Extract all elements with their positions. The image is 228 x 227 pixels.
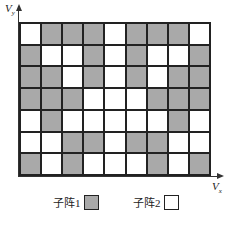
grid-cell-subarray2 <box>104 132 125 154</box>
grid-cell-subarray1 <box>83 66 104 88</box>
grid-cell-subarray1 <box>20 153 41 175</box>
grid-cell-subarray1 <box>62 132 83 154</box>
grid-cell-subarray2 <box>83 153 104 175</box>
grid-cell-subarray2 <box>126 88 147 110</box>
grid-cell-subarray1 <box>147 23 168 45</box>
grid-cell-subarray2 <box>126 110 147 132</box>
grid-cell-subarray2 <box>104 110 125 132</box>
x-axis-label: Vx <box>212 180 222 195</box>
grid-cell-subarray1 <box>62 153 83 175</box>
grid-cell-subarray2 <box>126 153 147 175</box>
legend: 子阵1 子阵2 <box>0 194 228 214</box>
legend-item-subarray2: 子阵2 <box>133 194 179 210</box>
grid-cell-subarray1 <box>83 23 104 45</box>
grid-cell-subarray1 <box>20 66 41 88</box>
grid-cell-subarray1 <box>189 45 210 67</box>
grid-cell-subarray1 <box>62 88 83 110</box>
y-axis-arrow-icon <box>16 4 22 11</box>
grid-cell-subarray2 <box>104 88 125 110</box>
grid-cell-subarray2 <box>189 23 210 45</box>
grid-cell-subarray2 <box>168 132 189 154</box>
grid-cell-subarray1 <box>41 66 62 88</box>
grid-cell-subarray1 <box>41 23 62 45</box>
legend-label-subarray2: 子阵2 <box>133 194 161 210</box>
grid-cell-subarray2 <box>83 88 104 110</box>
grid-cell-subarray2 <box>168 153 189 175</box>
grid-cell-subarray2 <box>62 110 83 132</box>
grid-cell-subarray1 <box>41 110 62 132</box>
grid-cell-subarray2 <box>147 45 168 67</box>
grid-cell-subarray1 <box>189 66 210 88</box>
grid-cell-subarray1 <box>83 45 104 67</box>
grid-cell-subarray1 <box>83 132 104 154</box>
legend-swatch-subarray1 <box>84 195 99 210</box>
grid-cell-subarray1 <box>126 66 147 88</box>
grid-cell-subarray2 <box>41 153 62 175</box>
grid-cell-subarray2 <box>104 45 125 67</box>
grid-cell-subarray2 <box>104 23 125 45</box>
grid-cell-subarray1 <box>126 23 147 45</box>
grid-cell-subarray2 <box>62 45 83 67</box>
y-axis-label-main: V <box>5 2 12 14</box>
grid-cell-subarray2 <box>147 66 168 88</box>
grid-cell-subarray1 <box>147 132 168 154</box>
grid-cell-subarray2 <box>147 110 168 132</box>
y-axis-label: Vy <box>5 2 15 17</box>
grid-cell-subarray2 <box>168 45 189 67</box>
legend-item-subarray1: 子阵1 <box>53 194 99 210</box>
grid-cell-subarray1 <box>189 88 210 110</box>
grid-cell-subarray1 <box>62 23 83 45</box>
grid-cell-subarray1 <box>147 88 168 110</box>
x-axis-arrow-icon <box>217 173 224 179</box>
grid-cell-subarray1 <box>168 110 189 132</box>
grid-cell-subarray1 <box>20 45 41 67</box>
grid-cell-subarray1 <box>168 66 189 88</box>
legend-swatch-subarray2 <box>164 195 179 210</box>
grid-cell-subarray1 <box>189 153 210 175</box>
grid-cell-subarray2 <box>41 45 62 67</box>
grid-cell-subarray2 <box>189 110 210 132</box>
grid-cell-subarray2 <box>104 153 125 175</box>
grid-cell-subarray1 <box>41 88 62 110</box>
grid-cell-subarray2 <box>20 110 41 132</box>
y-axis-label-sub: y <box>12 9 15 17</box>
x-axis-label-main: V <box>212 180 219 192</box>
subarray-grid <box>19 22 211 176</box>
grid-cell-subarray2 <box>104 66 125 88</box>
grid-cell-subarray1 <box>147 153 168 175</box>
grid-cell-subarray2 <box>20 23 41 45</box>
grid-cell-subarray1 <box>126 45 147 67</box>
legend-label-subarray1: 子阵1 <box>53 194 81 210</box>
grid-cell-subarray2 <box>62 66 83 88</box>
grid-cell-subarray1 <box>126 132 147 154</box>
grid-cell-subarray1 <box>20 88 41 110</box>
grid-cell-subarray2 <box>20 132 41 154</box>
grid-cell-subarray2 <box>83 110 104 132</box>
grid-cell-subarray1 <box>168 23 189 45</box>
grid-cell-subarray2 <box>41 132 62 154</box>
grid-cell-subarray2 <box>189 132 210 154</box>
grid-cell-subarray1 <box>168 88 189 110</box>
